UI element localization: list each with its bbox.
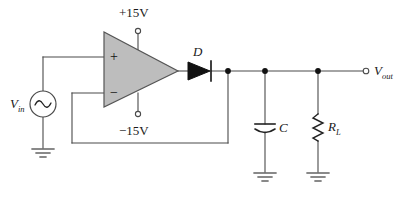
resistor-symbol: R xyxy=(328,119,336,134)
schematic-canvas xyxy=(0,0,400,199)
capacitor-label: C xyxy=(279,121,288,134)
opamp-noninverting-sign: + xyxy=(110,50,118,64)
output-voltage-label: Vout xyxy=(374,64,393,80)
diode-triangle-icon xyxy=(188,62,210,80)
output-voltage-subscript: out xyxy=(382,71,393,81)
input-voltage-subscript: in xyxy=(18,104,25,114)
circuit-diagram-figure: + − +15V −15V Vin Vout D C RL xyxy=(0,0,400,199)
input-voltage-symbol: V xyxy=(10,96,18,111)
resistor-zigzag xyxy=(313,114,323,141)
negative-supply-label: −15V xyxy=(119,124,149,137)
capacitor-plate-bottom-curved xyxy=(255,129,275,133)
output-voltage-symbol: V xyxy=(374,63,382,78)
opamp-inverting-sign: − xyxy=(110,86,118,100)
resistor-label: RL xyxy=(328,120,341,136)
positive-supply-terminal xyxy=(135,28,140,33)
output-terminal-circle xyxy=(363,68,369,74)
node-dot-diode-output xyxy=(225,68,231,74)
positive-supply-label: +15V xyxy=(119,6,149,19)
diode-label: D xyxy=(193,45,202,58)
negative-supply-terminal xyxy=(135,111,140,116)
ground-symbols xyxy=(32,149,329,181)
node-dot-capacitor xyxy=(262,68,268,74)
input-voltage-label: Vin xyxy=(10,97,25,113)
node-dot-resistor xyxy=(315,68,321,74)
resistor-subscript: L xyxy=(336,127,341,137)
wire-network xyxy=(43,34,363,172)
